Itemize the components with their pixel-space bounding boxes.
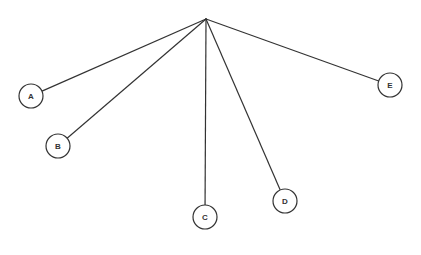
node-b: B (46, 134, 70, 158)
node-d: D (273, 189, 297, 213)
node-label: D (282, 197, 288, 206)
edge-root-e (206, 19, 379, 81)
node-label: C (202, 213, 208, 222)
edge-root-c (205, 19, 206, 205)
edge-root-d (206, 19, 280, 190)
node-label: B (55, 142, 61, 151)
nodes: ABCDE (19, 73, 402, 229)
diagram-svg: ABCDE (0, 0, 421, 255)
edge-root-a (42, 19, 206, 91)
tree-diagram: ABCDE (0, 0, 421, 255)
node-a: A (19, 84, 43, 108)
node-label: E (387, 81, 393, 90)
edges (42, 19, 379, 205)
root-point (205, 18, 207, 20)
node-label: A (28, 92, 34, 101)
edge-root-b (67, 19, 206, 138)
node-c: C (193, 205, 217, 229)
node-e: E (378, 73, 402, 97)
